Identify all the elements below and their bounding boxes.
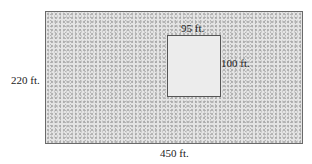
outer-height-label: 220 ft. [11,74,40,86]
inner-width-label: 95 ft. [181,22,204,34]
inner-building-rectangle [167,35,221,97]
outer-width-label: 450 ft. [160,147,189,159]
inner-height-label: 100 ft. [221,57,250,69]
